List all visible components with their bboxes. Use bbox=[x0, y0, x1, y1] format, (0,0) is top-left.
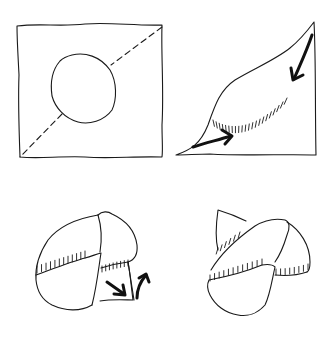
hatch-mark bbox=[216, 122, 217, 128]
crease-hatching bbox=[213, 98, 287, 133]
hatch-mark bbox=[219, 123, 220, 129]
arrow-tuck-in bbox=[107, 282, 124, 294]
hatch-mark bbox=[216, 248, 218, 254]
hatch-mark bbox=[280, 102, 283, 108]
dashed-diagonal-fold-line-lower bbox=[20, 114, 62, 157]
hatch-mark bbox=[225, 242, 227, 248]
hatch-mark bbox=[233, 235, 235, 241]
finished-pouch-top-lobe bbox=[211, 219, 289, 270]
finished-pouch-top-tip bbox=[216, 210, 246, 250]
step-3-panel bbox=[36, 212, 149, 310]
hatch-mark bbox=[248, 124, 249, 130]
pouch-back-left bbox=[36, 215, 98, 310]
hatch-mark bbox=[259, 119, 260, 125]
hatch-mark bbox=[262, 117, 264, 123]
crease-hatching-right bbox=[102, 260, 128, 272]
hatch-mark bbox=[245, 125, 246, 131]
finished-pouch-front-flap bbox=[208, 265, 275, 316]
pouch-center-fold bbox=[98, 215, 101, 252]
folding-diagram bbox=[0, 0, 334, 340]
crease-hatching-left bbox=[37, 251, 85, 273]
crease-hatching-finished bbox=[210, 232, 308, 281]
pouch-top-right-lobe bbox=[98, 212, 137, 262]
hatch-mark bbox=[252, 123, 253, 129]
step-1-panel bbox=[17, 23, 163, 157]
hatch-mark bbox=[220, 245, 222, 251]
hatch-mark bbox=[284, 98, 287, 104]
center-circle bbox=[51, 54, 115, 123]
finished-pouch-right-bottom bbox=[275, 272, 307, 275]
hatch-mark bbox=[269, 112, 271, 118]
step-4-panel bbox=[208, 210, 310, 316]
hatch-mark bbox=[266, 114, 268, 120]
hatch-mark bbox=[229, 238, 231, 244]
finished-pouch-right-lobe bbox=[287, 222, 310, 272]
step-2-panel bbox=[176, 22, 316, 155]
hatch-mark bbox=[273, 109, 275, 115]
front-flap bbox=[36, 253, 101, 305]
dashed-diagonal-fold-line bbox=[111, 27, 162, 65]
hatch-mark bbox=[255, 121, 256, 127]
hatch-mark bbox=[277, 105, 279, 111]
folded-triangle bbox=[176, 22, 316, 155]
hatch-mark bbox=[213, 120, 214, 126]
right-edge bbox=[128, 262, 134, 300]
